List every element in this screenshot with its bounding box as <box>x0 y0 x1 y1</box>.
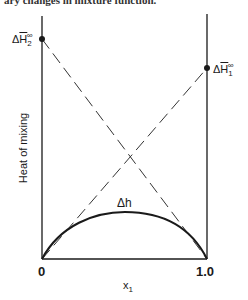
delta-h-curve <box>42 212 207 259</box>
x-tick-1: 1.0 <box>196 264 214 279</box>
x-axis-label: x1 <box>123 279 133 294</box>
curve-label: Δh <box>117 196 132 210</box>
heat-of-mixing-diagram <box>0 0 248 300</box>
point-h2-infinity <box>39 36 45 42</box>
y-axis-label: Heat of mixing <box>17 113 29 183</box>
label-h2-infinity: ΔH2∞ <box>12 31 32 48</box>
label-h1-infinity: ΔH1∞ <box>213 61 233 78</box>
point-h1-infinity <box>204 65 210 71</box>
tangent-line-h2 <box>42 39 207 259</box>
x-tick-0: 0 <box>38 264 45 279</box>
